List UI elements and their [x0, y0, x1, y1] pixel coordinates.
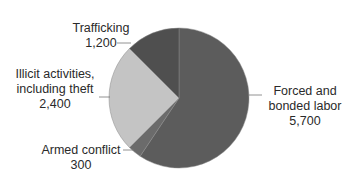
label-forced-line2: bonded labor — [265, 99, 345, 114]
label-forced-value: 5,700 — [265, 114, 345, 129]
label-trafficking-name: Trafficking — [66, 21, 136, 36]
label-armed-value: 300 — [40, 158, 122, 173]
label-illicit-line2: including theft — [8, 82, 102, 97]
label-armed-name: Armed conflict — [40, 143, 122, 158]
label-illicit: Illicit activities, including theft 2,40… — [8, 67, 102, 112]
label-trafficking-value: 1,200 — [66, 36, 136, 51]
label-forced-line1: Forced and — [265, 84, 345, 99]
label-forced-labor: Forced and bonded labor 5,700 — [265, 84, 345, 129]
label-armed-conflict: Armed conflict 300 — [40, 143, 122, 173]
label-illicit-value: 2,400 — [8, 97, 102, 112]
label-illicit-line1: Illicit activities, — [8, 67, 102, 82]
label-trafficking: Trafficking 1,200 — [66, 21, 136, 51]
